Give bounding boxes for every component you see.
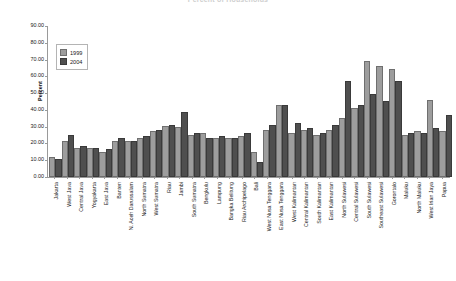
- x-tick-mark: [167, 177, 168, 179]
- x-tick-mark: [117, 177, 118, 179]
- x-tick-mark: [442, 177, 443, 179]
- x-tick-mark: [267, 177, 268, 179]
- y-tick-label: 80.00: [31, 39, 45, 45]
- x-tick-mark: [292, 177, 293, 179]
- x-tick-label: Bengkulu: [204, 182, 209, 204]
- x-label-cell: Banten: [111, 179, 124, 279]
- bar-group: [313, 26, 326, 177]
- x-tick-mark: [242, 177, 243, 179]
- x-label-cell: North Sumatra: [136, 179, 149, 279]
- bar-group: [364, 26, 377, 177]
- y-tick-label: 70.00: [31, 56, 45, 62]
- x-tick-label: West Nusa Tenggara: [267, 182, 272, 231]
- x-tick-mark: [392, 177, 393, 179]
- bar-group: [125, 26, 138, 177]
- chart-title: Percent of Households: [0, 0, 456, 6]
- x-label-cell: Central Sulawesi: [348, 179, 361, 279]
- bar-group: [225, 26, 238, 177]
- x-label-cell: Riau Archipelago: [236, 179, 249, 279]
- x-label-cell: South Sulawesi: [361, 179, 374, 279]
- x-label-cell: North Sulawesi: [336, 179, 349, 279]
- x-tick-label: North Sulawesi: [342, 182, 347, 218]
- x-tick-mark: [354, 177, 355, 179]
- x-label-cell: Central Java: [73, 179, 86, 279]
- x-tick-mark: [129, 177, 130, 179]
- x-tick-label: N. Aceh Darussalam: [129, 182, 134, 230]
- x-label-cell: East Nusa Tenggara: [273, 179, 286, 279]
- bar-group: [301, 26, 314, 177]
- bar-group: [188, 26, 201, 177]
- bar-group: [238, 26, 251, 177]
- y-tick-label: 90.00: [31, 22, 45, 28]
- x-tick-mark: [329, 177, 330, 179]
- bar-group: [112, 26, 125, 177]
- bar-group: [99, 26, 112, 177]
- bar-group: [439, 26, 452, 177]
- bar-group: [150, 26, 163, 177]
- x-tick-label: Jakarta: [54, 182, 59, 199]
- x-label-cell: South Kalimantan: [311, 179, 324, 279]
- x-tick-label: Gorontalo: [392, 182, 397, 205]
- x-tick-label: South Sulawesi: [367, 182, 372, 219]
- x-tick-mark: [404, 177, 405, 179]
- legend-swatch-icon-2004: [60, 58, 67, 65]
- x-tick-mark: [367, 177, 368, 179]
- x-tick-label: East Nusa Tenggara: [279, 182, 284, 230]
- bar-group: [87, 26, 100, 177]
- x-label-cell: Bengkulu: [198, 179, 211, 279]
- bar-group: [137, 26, 150, 177]
- x-tick-label: East Java: [104, 182, 109, 205]
- x-tick-label: Bali: [254, 182, 259, 191]
- legend-item-1999: 1999: [60, 48, 82, 57]
- x-tick-label: Bangka Belitung: [229, 182, 234, 221]
- x-label-cell: West Java: [61, 179, 74, 279]
- x-label-cell: South Sumatra: [186, 179, 199, 279]
- x-tick-label: Banten: [117, 182, 122, 199]
- x-label-cell: Gorontalo: [386, 179, 399, 279]
- x-label-cell: Papua: [436, 179, 449, 279]
- x-tick-mark: [304, 177, 305, 179]
- x-tick-mark: [192, 177, 193, 179]
- bar-group: [213, 26, 226, 177]
- x-label-cell: Central Kalimantan: [298, 179, 311, 279]
- x-tick-label: Yogyakarta: [92, 182, 97, 208]
- x-tick-label: Southeast Sulawesi: [379, 182, 384, 229]
- x-tick-label: Central Sulawesi: [354, 182, 359, 222]
- x-label-cell: West Nusa Tenggara: [261, 179, 274, 279]
- bar: [446, 115, 452, 177]
- x-label-cell: N. Aceh Darussalam: [123, 179, 136, 279]
- x-tick-mark: [317, 177, 318, 179]
- x-label-cell: East Kalimantan: [323, 179, 336, 279]
- x-tick-mark: [92, 177, 93, 179]
- bar-group: [162, 26, 175, 177]
- x-tick-mark: [254, 177, 255, 179]
- bar-group: [200, 26, 213, 177]
- bar-group: [288, 26, 301, 177]
- bar-group: [326, 26, 339, 177]
- x-tick-label: Papua: [442, 182, 447, 197]
- legend-label-2004: 2004: [70, 59, 82, 65]
- x-label-cell: Riau: [161, 179, 174, 279]
- x-tick-mark: [429, 177, 430, 179]
- x-tick-mark: [217, 177, 218, 179]
- x-tick-mark: [104, 177, 105, 179]
- x-tick-label: South Kalimantan: [317, 182, 322, 224]
- bar-group: [389, 26, 402, 177]
- x-tick-mark: [79, 177, 80, 179]
- x-tick-label: Central Java: [79, 182, 84, 212]
- x-tick-label: West Sumatra: [154, 182, 159, 215]
- x-tick-label: North Maluku: [417, 182, 422, 214]
- x-tick-label: Lampung: [217, 182, 222, 204]
- y-tick-label: 30.00: [31, 123, 45, 129]
- x-tick-mark: [417, 177, 418, 179]
- legend: 1999 2004: [56, 44, 88, 70]
- x-tick-label: South Sumatra: [192, 182, 197, 217]
- x-tick-label: West Kalimantan: [292, 182, 297, 222]
- y-tick-label: 50.00: [31, 89, 45, 95]
- x-tick-label: Riau Archipelago: [242, 182, 247, 222]
- bar-group: [276, 26, 289, 177]
- bars-layer: [48, 26, 450, 177]
- legend-swatch-icon-1999: [60, 49, 67, 56]
- y-tick-label: 0.00: [34, 173, 45, 179]
- bar-group: [427, 26, 440, 177]
